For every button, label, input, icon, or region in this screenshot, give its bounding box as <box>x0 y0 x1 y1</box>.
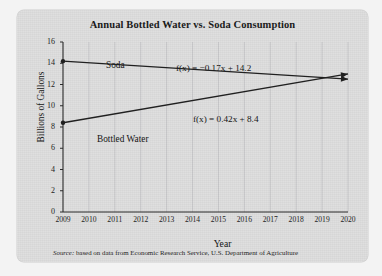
y-tick-label: 16 <box>39 37 55 46</box>
x-tick-label: 2010 <box>76 215 102 224</box>
arrowhead-bottled-water <box>341 72 348 78</box>
data-point-start-bottled-water <box>61 121 65 125</box>
x-tick-label: 2016 <box>231 215 257 224</box>
series-line-soda <box>63 61 348 79</box>
x-tick-label: 2011 <box>102 215 128 224</box>
x-tick-label: 2017 <box>257 215 283 224</box>
y-tick-label: 10 <box>39 101 55 110</box>
y-tick-label: 4 <box>39 165 55 174</box>
y-tick-label: 2 <box>39 186 55 195</box>
y-tick-label: 14 <box>39 58 55 67</box>
x-tick-label: 2018 <box>283 215 309 224</box>
data-series-lines <box>61 59 348 125</box>
y-tick-label: 0 <box>39 207 55 216</box>
x-tick-label: 2019 <box>309 215 335 224</box>
plot-area <box>0 0 382 276</box>
x-tick-label: 2020 <box>335 215 361 224</box>
x-tick-label: 2014 <box>180 215 206 224</box>
x-tick-label: 2009 <box>50 215 76 224</box>
y-tick-label: 12 <box>39 80 55 89</box>
gridlines <box>89 42 348 212</box>
x-tick-label: 2015 <box>205 215 231 224</box>
y-tick-label: 6 <box>39 143 55 152</box>
x-tick-label: 2012 <box>128 215 154 224</box>
y-tick-label: 8 <box>39 122 55 131</box>
x-tick-label: 2013 <box>154 215 180 224</box>
data-point-start-soda <box>61 59 65 63</box>
series-line-bottled-water <box>63 74 348 123</box>
